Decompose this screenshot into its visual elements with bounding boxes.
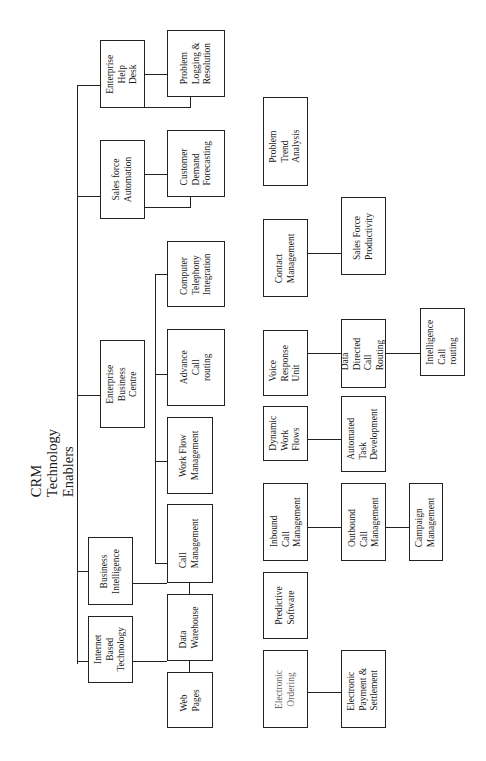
node-problem-trend-analysis: Problem Trend Analysis xyxy=(263,97,308,186)
node-enterprise-business-centre: Enterprise Business Centre xyxy=(100,340,145,428)
branch-line xyxy=(77,85,100,86)
node-dynamic-work-flows: Dynamic Work Flows xyxy=(263,406,308,461)
node-web-pages: Web Pages xyxy=(167,672,213,728)
connector-line xyxy=(155,461,167,462)
node-sales-force-productivity: Sales Force Productivity xyxy=(341,197,386,275)
connector-line xyxy=(145,174,167,175)
title-text: CRM Technology Enablers xyxy=(28,428,76,496)
connector-line xyxy=(386,527,409,528)
connector-line xyxy=(145,207,191,208)
main-trunk-line xyxy=(77,85,78,664)
node-predictive-software: Predictive Software xyxy=(263,572,308,639)
branch-line xyxy=(77,661,88,662)
connector-line xyxy=(308,527,341,528)
node-outbound-call-management: Outbound Call Management xyxy=(341,483,386,561)
connector-line xyxy=(155,563,167,564)
node-enterprise-help-desk: Enterprise Help Desk xyxy=(100,40,145,108)
node-campaign-management: Campaign Management xyxy=(409,483,443,561)
node-call-management: Call Management xyxy=(167,504,213,583)
connector-line xyxy=(145,74,167,75)
connector-line xyxy=(308,692,341,693)
node-internet-based-technology: Internet Based Technology xyxy=(88,616,133,683)
ebc-bus-line xyxy=(155,274,156,564)
connector-line xyxy=(386,353,420,354)
node-data-warehouse: Data Warehouse xyxy=(167,594,213,661)
node-computer-telephony-integration: Computer Telephony Integration xyxy=(167,241,225,307)
node-contact-management: Contact Management xyxy=(263,219,308,297)
node-intelligence-call-routing: Intelligence Call routing xyxy=(420,308,465,376)
node-sales-force-automation: Sales force Automation xyxy=(100,140,145,219)
branch-line xyxy=(77,571,88,572)
diagram-title: CRM Technology Enablers xyxy=(22,400,82,525)
node-electronic-ordering: Electronic Ordering xyxy=(263,650,308,728)
connector-line xyxy=(155,374,167,375)
connector-line xyxy=(133,583,167,584)
node-business-intelligence: Business Intelligence xyxy=(88,537,133,605)
connector-line xyxy=(189,661,190,672)
node-problem-logging: Problem Logging & Resolution xyxy=(167,30,225,97)
node-voice-response-unit: Voice Response Unit xyxy=(263,330,308,396)
connector-line xyxy=(133,661,167,662)
branch-line xyxy=(77,196,100,197)
node-inbound-call-management: Inbound Call Management xyxy=(263,483,308,561)
node-customer-demand-forecasting: Customer Demand Forecasting xyxy=(167,130,225,197)
node-data-directed-call-routing: Data Directed Call Routing xyxy=(341,319,386,388)
node-work-flow-management: Work Flow Management xyxy=(167,417,213,494)
connector-line xyxy=(145,107,191,108)
connector-line xyxy=(155,274,167,275)
branch-line xyxy=(77,395,100,396)
node-electronic-payment-settlement: Electronic Payment & Settlement xyxy=(341,650,386,728)
connector-line xyxy=(308,353,341,354)
connector-line xyxy=(189,583,190,594)
node-automated-task-development: Automated Task Development xyxy=(341,396,386,472)
connector-line xyxy=(308,439,341,440)
connector-line xyxy=(308,253,341,254)
node-advance-call-routing: Advance Call routing xyxy=(167,329,225,406)
